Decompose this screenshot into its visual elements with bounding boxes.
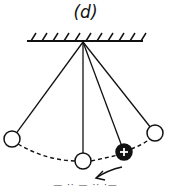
left-bob [4, 131, 20, 147]
charged-bob-positive-charge-icon [116, 144, 132, 160]
pendulum-strings [17, 42, 150, 153]
right-bob [147, 125, 163, 141]
ceiling-support [27, 33, 146, 41]
caption-cropped: — ·· — ·· ·— [0, 180, 171, 189]
panel-label: (d) [0, 2, 171, 22]
motion-arrow-icon [96, 167, 122, 180]
pendulum-diagram [0, 0, 171, 189]
middle-bob [75, 153, 91, 169]
